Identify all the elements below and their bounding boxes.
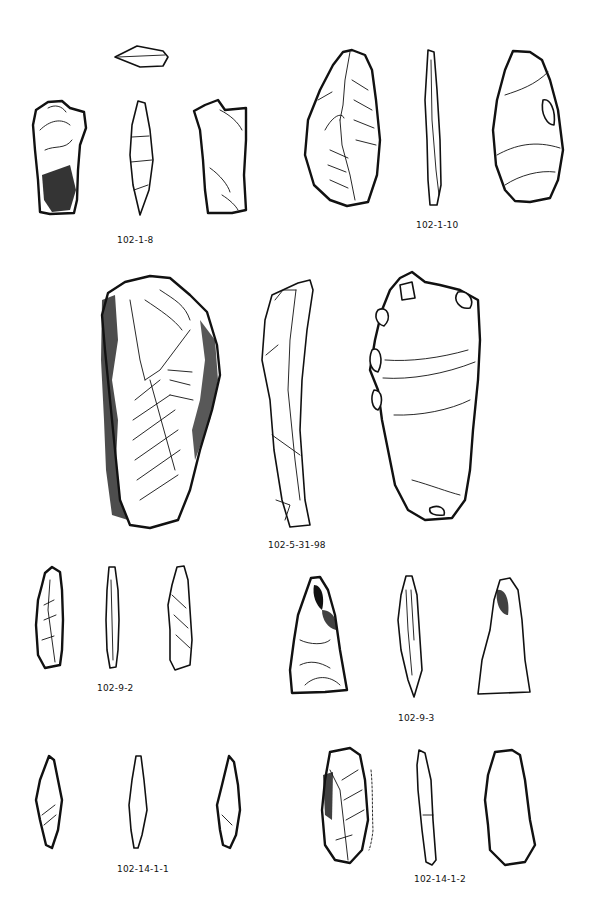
artifact-102-1-10-drawings [305, 50, 563, 206]
label-102-9-2: 102-9-2 [97, 683, 134, 693]
artifact-102-5-31-98-ventral-view [370, 272, 480, 520]
artifact-102-1-10-ventral-view [493, 51, 563, 202]
artifact-102-14-1-2-drawings [322, 748, 535, 865]
artifact-102-1-8-lateral-view [130, 101, 153, 215]
label-102-14-1-2: 102-14-1-2 [414, 874, 466, 884]
artifact-102-14-1-2-ventral-view [485, 750, 535, 865]
artifact-102-5-31-98-lateral-view [262, 280, 313, 527]
artifact-plate: 102-1-8 102-1-10 102-5-31-98 102-9-2 102… [0, 0, 591, 909]
artifact-102-9-3-lateral-view [398, 576, 422, 697]
artifact-102-1-8-drawings [33, 46, 246, 215]
artifact-102-14-1-1-dorsal-view [36, 756, 62, 848]
label-102-14-1-1: 102-14-1-1 [117, 864, 169, 874]
artifact-102-5-31-98-drawings [101, 272, 480, 528]
artifact-102-9-2-ventral-view [168, 566, 192, 670]
artifact-102-14-1-1-lateral-view [129, 756, 147, 848]
label-102-5-31-98: 102-5-31-98 [268, 540, 326, 550]
artifact-drawings [0, 0, 591, 909]
artifact-102-1-8-ventral-view [194, 100, 246, 213]
label-102-1-8: 102-1-8 [117, 235, 154, 245]
artifact-102-14-1-2-lateral-view [417, 750, 436, 865]
artifact-102-14-1-1-ventral-view [217, 756, 240, 848]
artifact-102-1-10-dorsal-view [305, 50, 380, 206]
label-102-1-10: 102-1-10 [416, 220, 458, 230]
artifact-102-14-1-1-drawings [36, 756, 240, 848]
artifact-102-9-3-drawings [290, 576, 530, 697]
artifact-102-9-2-drawings [36, 566, 192, 670]
label-102-9-3: 102-9-3 [398, 713, 435, 723]
